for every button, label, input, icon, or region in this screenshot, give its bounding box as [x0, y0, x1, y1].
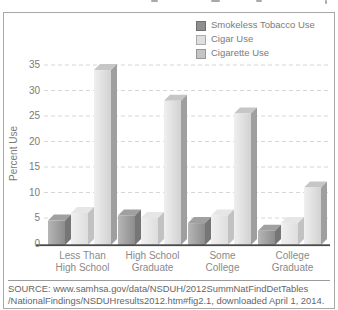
- source-text-line-2: /NationalFindings/NSDUHresults2012.htm#f…: [8, 295, 334, 307]
- y-tick-label-10: 10: [14, 187, 40, 199]
- bar-smokeless-tobacco-use-high-school-graduate: [118, 215, 135, 245]
- legend-swatch-icon: [196, 35, 206, 45]
- source-text-line-1: SOURCE: www.samhsa.gov/data/NSDUH/2012Su…: [8, 283, 334, 295]
- legend-swatch-icon: [196, 21, 206, 31]
- bar-cigar-use-college-graduate: [281, 223, 298, 245]
- bar-smokeless-tobacco-use-some-college: [188, 223, 205, 245]
- bar-smokeless-tobacco-use-college-graduate: [258, 231, 275, 245]
- chart-legend: Smokeless Tobacco UseCigar UseCigarette …: [196, 19, 315, 61]
- bar-cigar-use-high-school-graduate: [141, 218, 158, 245]
- legend-label: Cigarette Use: [211, 47, 269, 59]
- bar-cigarette-use-college-graduate-side: [321, 181, 327, 245]
- y-tick-label-30: 30: [14, 85, 40, 97]
- bar-cigarette-use-some-college-side: [251, 107, 257, 245]
- legend-swatch-icon: [196, 49, 206, 59]
- legend-item-cigar-use: Cigar Use: [196, 33, 315, 45]
- y-tick-label-15: 15: [14, 161, 40, 173]
- bar-cigar-use-some-college: [211, 215, 228, 245]
- y-tick-label-20: 20: [14, 136, 40, 148]
- bar-smokeless-tobacco-use-high-school-graduate-side: [135, 209, 141, 245]
- y-tick-label-25: 25: [14, 110, 40, 122]
- bar-cigarette-use-college-graduate: [304, 187, 321, 245]
- bar-cigarette-use-less-than-high-school-side: [111, 64, 117, 245]
- bar-cigar-use-some-college-side: [228, 209, 234, 245]
- y-tick-label-5: 5: [14, 212, 40, 224]
- bar-cigarette-use-some-college: [234, 113, 251, 245]
- bar-cigar-use-less-than-high-school-side: [88, 207, 94, 245]
- bar-cigarette-use-less-than-high-school: [94, 70, 111, 245]
- bar-cigarette-use-high-school-graduate-side: [181, 95, 187, 245]
- legend-label: Cigar Use: [211, 33, 253, 45]
- figure: Percent Use 05101520253035 Smokeless Tob…: [0, 0, 338, 310]
- y-tick-label-0: 0: [14, 238, 40, 250]
- bar-smokeless-tobacco-use-less-than-high-school: [48, 221, 65, 245]
- x-axis-line: [36, 244, 330, 246]
- bar-cigar-use-less-than-high-school: [71, 213, 88, 245]
- legend-label: Smokeless Tobacco Use: [211, 19, 315, 31]
- footer-divider: [8, 280, 330, 281]
- bar-cigarette-use-high-school-graduate: [164, 101, 181, 245]
- legend-item-cigarette-use: Cigarette Use: [196, 47, 315, 59]
- y-axis-title: Percent Use: [8, 118, 19, 190]
- y-tick-label-35: 35: [14, 59, 40, 71]
- x-label-college-graduate: CollegeGraduate: [248, 250, 338, 273]
- legend-item-smokeless-tobacco-use: Smokeless Tobacco Use: [196, 19, 315, 31]
